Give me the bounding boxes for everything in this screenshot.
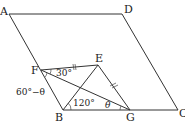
label-e: E: [95, 52, 103, 65]
geometry-diagram: A D C B F E G 30° 60°−θ 120° θ: [0, 0, 185, 123]
angle-arc-fgb: [120, 106, 121, 110]
angle-arc-bfg: [45, 73, 47, 77]
angle-arc-efg: [50, 69, 51, 74]
label-g: G: [126, 111, 135, 123]
angle-arc-ebg: [68, 103, 71, 110]
angle-label-bfg: 60°−θ: [16, 87, 45, 97]
angle-label-efg: 30°: [56, 68, 72, 78]
label-a: A: [0, 5, 9, 18]
label-c: C: [179, 107, 185, 120]
label-f: F: [31, 64, 39, 77]
angle-label-ebg: 120°: [73, 98, 95, 108]
angle-label-fgb: θ: [105, 100, 111, 110]
label-d: D: [124, 3, 133, 16]
diagram-canvas: A D C B F E G 30° 60°−θ 120° θ: [0, 0, 185, 123]
label-b: B: [55, 111, 63, 123]
